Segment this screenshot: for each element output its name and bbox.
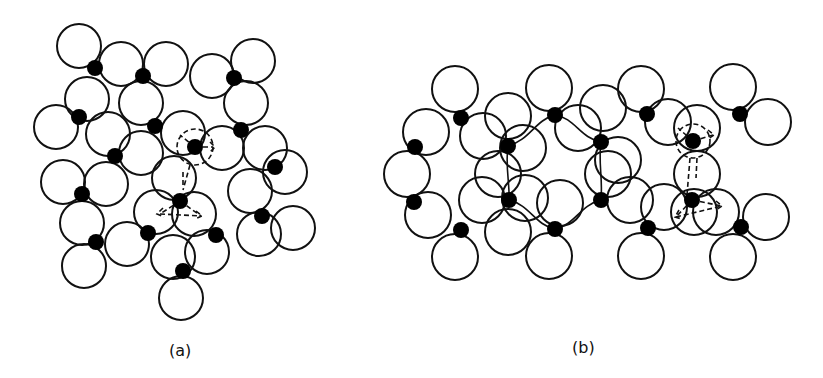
silicon-atom (593, 192, 609, 208)
oxygen-sphere (475, 151, 521, 197)
silicon-atom (107, 148, 123, 164)
silicon-atom (501, 192, 517, 208)
silicon-atom (593, 134, 609, 150)
oxygen-sphere (745, 99, 791, 145)
silicon-atom (88, 234, 104, 250)
silicon-atom (453, 110, 469, 126)
silicon-atom (226, 70, 242, 86)
oxygen-sphere (485, 93, 531, 139)
panel-b-oxygen-spheres (384, 64, 791, 280)
silicon-atom (406, 194, 422, 210)
oxygen-sphere (618, 233, 664, 279)
silicon-atom (640, 220, 656, 236)
oxygen-sphere (62, 244, 106, 288)
oxygen-sphere (224, 81, 268, 125)
oxygen-sphere (271, 206, 315, 250)
oxygen-sphere (432, 234, 478, 280)
silicon-atom (407, 139, 423, 155)
silicon-atom (147, 118, 163, 134)
silicon-atom (684, 192, 700, 208)
silicon-atom (74, 186, 90, 202)
silicon-atom (267, 159, 283, 175)
silicon-atom (732, 106, 748, 122)
silicon-atom (208, 227, 224, 243)
oxygen-sphere (159, 276, 203, 320)
oxygen-sphere (119, 131, 163, 175)
silicon-atom (547, 221, 563, 237)
silicon-atom (254, 208, 270, 224)
oxygen-sphere (384, 151, 430, 197)
panel-b-label: (b) (572, 338, 595, 357)
oxygen-sphere (432, 66, 478, 112)
silicon-atom (500, 138, 516, 154)
silicon-atom (547, 107, 563, 123)
panel-b-ordered-network (384, 64, 791, 280)
oxygen-sphere (537, 180, 583, 226)
oxygen-sphere (228, 169, 272, 213)
oxygen-sphere (526, 233, 572, 279)
oxygen-sphere (710, 64, 756, 110)
oxygen-sphere (710, 234, 756, 280)
silicon-atom (175, 263, 191, 279)
silicon-atom (453, 222, 469, 238)
silicon-atom (233, 122, 249, 138)
oxygen-sphere (84, 162, 128, 206)
oxygen-sphere (34, 105, 78, 149)
silicon-atom (172, 193, 188, 209)
oxygen-sphere (86, 112, 130, 156)
oxygen-sphere (743, 194, 789, 240)
silicon-atom (639, 106, 655, 122)
oxygen-sphere (526, 65, 572, 111)
oxygen-sphere (607, 177, 653, 223)
oxygen-sphere (144, 42, 188, 86)
oxygen-sphere (580, 85, 626, 131)
oxygen-sphere (645, 99, 691, 145)
silicon-atom (733, 219, 749, 235)
panel-a-random-network (34, 24, 315, 320)
silicon-atom (87, 60, 103, 76)
silicon-atom (685, 133, 701, 149)
oxygen-sphere (585, 151, 631, 197)
silicon-atom (71, 109, 87, 125)
oxygen-sphere (459, 177, 505, 223)
oxygen-sphere (485, 209, 531, 255)
silicon-atom (187, 139, 203, 155)
silicon-atom (135, 68, 151, 84)
silicon-atom (140, 225, 156, 241)
panel-a-label: (a) (169, 341, 191, 360)
diagram-figure (0, 0, 823, 378)
